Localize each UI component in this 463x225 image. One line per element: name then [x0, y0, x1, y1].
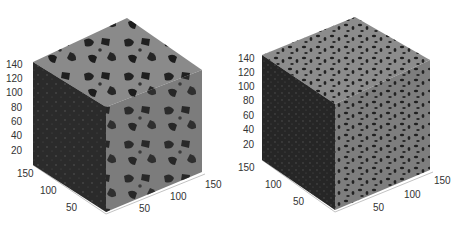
- x-tick: 150: [434, 176, 451, 186]
- z-tick: 140: [6, 60, 23, 70]
- z-tick: 120: [6, 74, 23, 84]
- y-tick: 150: [17, 169, 34, 179]
- z-tick: 60: [243, 111, 254, 121]
- y-tick: 150: [238, 163, 255, 173]
- z-tick: 60: [11, 117, 22, 127]
- volume-plot-left: 140 120 100 80 60 40 20 150 100 50 50 10…: [0, 0, 231, 225]
- z-tick: 80: [243, 96, 254, 106]
- x-tick: 50: [373, 203, 384, 213]
- volume-plot-right: 140 120 100 80 60 40 20 150 100 50 50 10…: [231, 0, 463, 225]
- z-tick: 100: [6, 88, 23, 98]
- z-tick: 80: [11, 103, 22, 113]
- y-tick: 50: [293, 197, 304, 207]
- x-tick: 150: [205, 180, 222, 190]
- z-tick: 100: [238, 82, 255, 92]
- cube-render-right: [231, 0, 463, 225]
- cube-render-left: [0, 0, 231, 225]
- y-tick: 100: [40, 186, 57, 196]
- z-tick: 20: [243, 140, 254, 150]
- z-tick: 40: [11, 131, 22, 141]
- x-tick: 50: [139, 204, 150, 214]
- z-tick: 140: [238, 54, 255, 64]
- z-tick: 20: [11, 146, 22, 156]
- y-tick: 50: [66, 203, 77, 213]
- z-tick: 40: [243, 125, 254, 135]
- y-tick: 100: [265, 180, 282, 190]
- z-tick: 120: [238, 68, 255, 78]
- x-tick: 100: [404, 190, 421, 200]
- x-tick: 100: [170, 192, 187, 202]
